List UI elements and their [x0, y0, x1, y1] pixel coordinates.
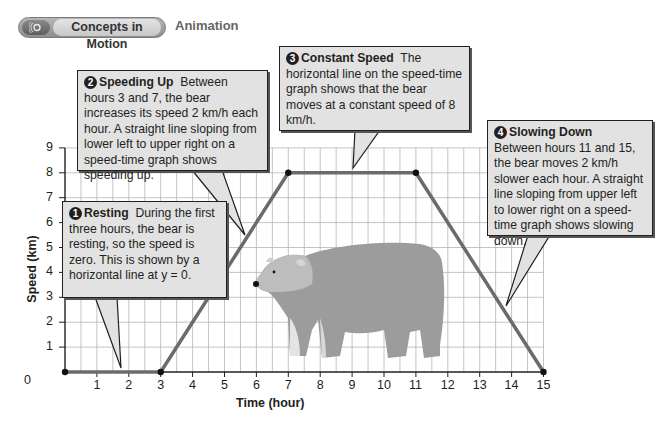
callout-number-4: 4	[494, 126, 507, 139]
x-tick-label: 4	[189, 378, 196, 392]
y-tick-label: 5	[46, 240, 53, 254]
y-tick-label: 2	[46, 314, 53, 328]
x-tick-label: 12	[441, 378, 455, 392]
callout-resting: 1Resting During the first three hours, t…	[62, 201, 227, 298]
x-tick-label: 8	[317, 378, 324, 392]
y-tick-label: 0	[24, 373, 31, 387]
x-tick-label: 9	[349, 378, 356, 392]
y-tick-label: 3	[46, 289, 53, 303]
x-tick-label: 13	[473, 378, 487, 392]
callout-constant-speed: 3Constant Speed The horizontal line on t…	[279, 46, 470, 131]
callout-number-2: 2	[84, 76, 97, 89]
y-tick-label: 1	[46, 339, 53, 353]
x-tick-label: 10	[377, 378, 391, 392]
y-tick-label: 7	[46, 190, 53, 204]
x-tick-label: 3	[157, 378, 164, 392]
callout-text: Between hours 3 and 7, the bear increase…	[84, 75, 258, 182]
x-tick-label: 6	[253, 378, 260, 392]
y-tick-label: 4	[46, 264, 53, 278]
callout-number-1: 1	[69, 207, 82, 220]
callout-number-3: 3	[286, 52, 299, 65]
callout-text: Between hours 11 and 15, the bear moves …	[494, 141, 643, 248]
y-axis-title: Speed (km)	[25, 229, 39, 309]
callout-title: Slowing Down	[509, 125, 592, 139]
x-tick-label: 15	[537, 378, 551, 392]
x-tick-label: 5	[221, 378, 228, 392]
x-tick-label: 7	[285, 378, 292, 392]
x-tick-label: 1	[93, 378, 100, 392]
x-tick-label: 2	[125, 378, 132, 392]
callout-title: Resting	[84, 206, 129, 220]
callout-title: Constant Speed	[301, 51, 394, 65]
x-tick-label: 14	[505, 378, 519, 392]
callout-slowing-down: 4Slowing Down Between hours 11 and 15, t…	[487, 120, 653, 236]
y-tick-label: 8	[46, 165, 53, 179]
x-axis-title: Time (hour)	[236, 396, 305, 410]
callout-speeding-up: 2Speeding Up Between hours 3 and 7, the …	[77, 70, 268, 171]
y-tick-label: 6	[46, 215, 53, 229]
y-tick-label: 9	[46, 140, 53, 154]
x-tick-label: 11	[409, 378, 422, 392]
callout-3-pointer	[353, 130, 380, 168]
callout-title: Speeding Up	[99, 75, 173, 89]
callout-1-pointer	[95, 297, 121, 368]
